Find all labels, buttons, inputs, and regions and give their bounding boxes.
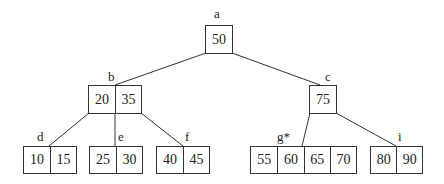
node-label-a: a [214,7,220,20]
node-f: 40 45 [156,146,210,174]
node-d: 10 15 [23,146,77,174]
key: 25 [90,147,116,173]
key: 70 [330,147,356,173]
node-b: 20 35 [88,85,142,114]
key: 30 [116,147,142,173]
edge-a-b [115,53,206,85]
edge-a-c [232,53,320,85]
key: 15 [50,147,76,173]
node-label-c: c [325,70,331,83]
btree-diagram: a 50 b 20 35 c 75 d 10 15 e 25 30 f 40 4… [0,0,444,184]
key: 90 [396,147,422,173]
key: 35 [115,86,141,113]
key: 75 [310,86,336,113]
edge-c-i [336,113,396,146]
node-a: 50 [205,25,233,54]
node-label-b: b [108,70,115,83]
key: 60 [277,147,303,173]
edge-c-g [302,113,310,146]
key: 20 [89,86,115,113]
edge-b-f [141,113,183,146]
node-i: 80 90 [370,146,423,174]
node-label-d: d [37,130,44,143]
key: 10 [24,147,50,173]
key: 45 [183,147,209,173]
node-label-i: i [398,130,402,143]
edge-b-d [49,113,89,146]
key: 65 [304,147,330,173]
key: 55 [251,147,277,173]
node-label-e: e [118,130,124,143]
key: 40 [157,147,183,173]
node-c: 75 [309,85,337,114]
node-label-f: f [185,130,189,143]
node-label-g: g* [277,130,290,143]
key: 80 [371,147,396,173]
key: 50 [206,26,232,53]
node-g: 55 60 65 70 [250,146,357,174]
node-e: 25 30 [89,146,143,174]
